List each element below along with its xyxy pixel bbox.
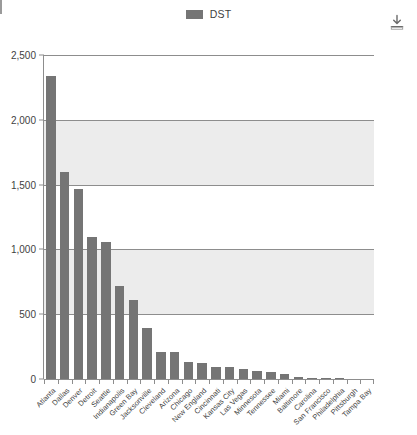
bar-slot[interactable] (250, 55, 264, 379)
bar[interactable] (197, 363, 207, 379)
chart-legend: DST (0, 8, 417, 20)
y-axis-label-2000: 2,000 (11, 114, 44, 125)
y-axis-label-2500: 2,500 (11, 50, 44, 61)
bar[interactable] (170, 352, 180, 379)
bar-slot[interactable] (223, 55, 237, 379)
bar-slot[interactable] (140, 55, 154, 379)
bar-slot[interactable] (209, 55, 223, 379)
bar-slot[interactable] (264, 55, 278, 379)
bar-slot[interactable] (127, 55, 141, 379)
bar[interactable] (129, 300, 139, 379)
bar-slot[interactable] (237, 55, 251, 379)
bar-slot[interactable] (182, 55, 196, 379)
bar[interactable] (101, 242, 111, 379)
bar-slot[interactable] (360, 55, 374, 379)
bar-slot[interactable] (44, 55, 58, 379)
bar-slot[interactable] (319, 55, 333, 379)
x-label-cell: Tampa Bay (360, 379, 374, 435)
bar-slot[interactable] (305, 55, 319, 379)
bar[interactable] (74, 189, 84, 380)
bar-slot[interactable] (168, 55, 182, 379)
bar-slot[interactable] (99, 55, 113, 379)
bar[interactable] (184, 362, 194, 379)
x-axis-labels: AtlantaDallasDenverDetroitSeattleIndiana… (44, 379, 374, 435)
bar-slot[interactable] (154, 55, 168, 379)
bar-slot[interactable] (333, 55, 347, 379)
bar-slot[interactable] (278, 55, 292, 379)
y-axis-label-500: 500 (19, 309, 44, 320)
legend-label-dst: DST (210, 8, 232, 20)
bar[interactable] (142, 328, 152, 379)
bar[interactable] (60, 172, 70, 379)
bar-slot[interactable] (113, 55, 127, 379)
bar[interactable] (46, 76, 56, 379)
legend-swatch-dst (186, 10, 203, 19)
y-axis-label-0: 0 (30, 374, 44, 385)
bar-slot[interactable] (347, 55, 361, 379)
bar-chart: 2,500 2,000 1,500 1,000 500 0 AtlantaDal… (44, 55, 374, 379)
bar[interactable] (239, 369, 249, 379)
bar-slot[interactable] (58, 55, 72, 379)
bar-slot[interactable] (195, 55, 209, 379)
download-icon[interactable] (389, 14, 405, 31)
bar[interactable] (115, 286, 125, 379)
bar[interactable] (252, 371, 262, 379)
y-axis-label-1000: 1,000 (11, 244, 44, 255)
bar[interactable] (87, 237, 97, 379)
bar-slot[interactable] (72, 55, 86, 379)
y-axis-label-1500: 1,500 (11, 179, 44, 190)
bar[interactable] (211, 367, 221, 379)
bar-slot[interactable] (85, 55, 99, 379)
bar[interactable] (225, 367, 235, 379)
bar-series-dst (44, 55, 374, 379)
bar[interactable] (156, 352, 166, 379)
bar[interactable] (266, 372, 276, 379)
bar-slot[interactable] (292, 55, 306, 379)
